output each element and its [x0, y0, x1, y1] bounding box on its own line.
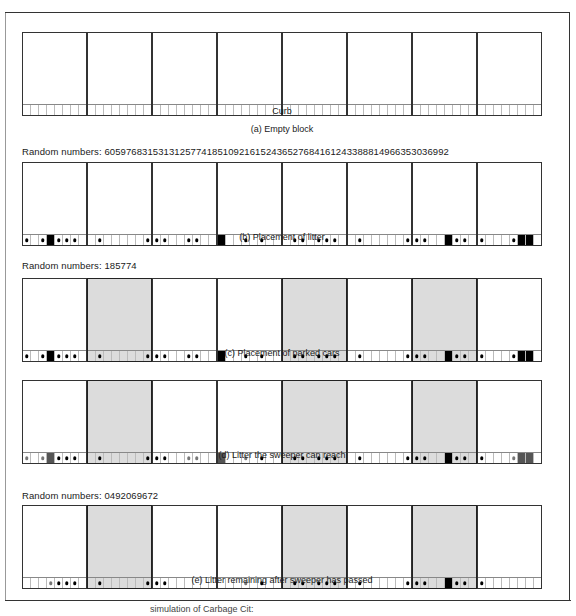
street-blocks — [22, 32, 542, 116]
block — [152, 32, 217, 116]
curb-label: Curb — [22, 106, 542, 116]
panel-caption: (b) Placement of litter — [22, 232, 542, 242]
figure-caption-partial: simulation of Carbage Cit: — [150, 604, 254, 614]
block — [282, 32, 347, 116]
block — [87, 32, 152, 116]
block — [412, 32, 477, 116]
panel-caption: (e) Litter remaining after sweeper has p… — [22, 575, 542, 585]
block — [217, 32, 282, 116]
random-numbers-label: Random numbers: 605976831531312577418510… — [22, 146, 449, 157]
random-numbers-label: Random numbers: 0492069672 — [22, 490, 158, 501]
panel-caption: (d) Litter the sweeper can reach — [22, 450, 542, 460]
random-numbers-label: Random numbers: 185774 — [22, 260, 137, 271]
block — [347, 32, 412, 116]
panel-caption: (a) Empty block — [22, 124, 542, 134]
block — [22, 32, 87, 116]
panel-caption: (c) Placement of parked cars — [22, 348, 542, 358]
block — [477, 32, 542, 116]
figure-frame-bottom — [5, 600, 571, 601]
